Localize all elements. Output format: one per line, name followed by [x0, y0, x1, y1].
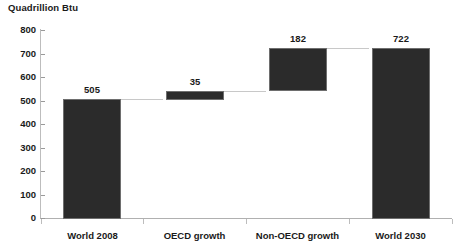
- x-tick-boundary-3: [349, 219, 350, 224]
- chart-axis-unit-title: Quadrillion Btu: [8, 2, 78, 13]
- y-tick-mark-500: [41, 101, 45, 102]
- x-category-label-oecd-growth: OECD growth: [143, 231, 246, 241]
- x-tick-boundary-1: [143, 219, 144, 224]
- x-category-label-non-oecd-growth: Non-OECD growth: [246, 231, 349, 241]
- x-tick-boundary-0: [41, 219, 42, 224]
- y-tick-mark-100: [41, 195, 45, 196]
- x-category-label-world-2030: World 2030: [349, 231, 452, 241]
- x-category-label-world-2008: World 2008: [41, 231, 144, 241]
- bar-oecd-growth: [166, 91, 224, 100]
- x-tick-boundary-2: [246, 219, 247, 224]
- waterfall-chart: Quadrillion Btu 800 700 600 500 400 300 …: [0, 0, 457, 251]
- bar-label-oecd-growth: 35: [166, 77, 224, 87]
- bar-world-2030: [372, 48, 430, 219]
- bar-label-world-2008: 505: [63, 85, 121, 95]
- bar-non-oecd-growth: [269, 48, 327, 91]
- y-tick-mark-600: [41, 77, 45, 78]
- y-tick-mark-400: [41, 124, 45, 125]
- bar-label-non-oecd-growth: 182: [269, 34, 327, 44]
- y-tick-mark-800: [41, 30, 45, 31]
- bar-label-world-2030: 722: [372, 34, 430, 44]
- bar-world-2008: [63, 99, 121, 219]
- y-tick-mark-200: [41, 171, 45, 172]
- y-tick-mark-700: [41, 54, 45, 55]
- x-tick-boundary-4: [452, 219, 453, 224]
- y-tick-mark-300: [41, 148, 45, 149]
